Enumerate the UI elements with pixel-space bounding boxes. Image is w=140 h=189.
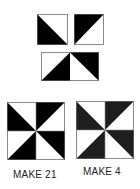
block-a-label: MAKE 21 bbox=[13, 169, 57, 180]
pinwheel-block-a bbox=[7, 102, 65, 160]
pinwheel-block-icon bbox=[7, 102, 65, 160]
hst-unit-2 bbox=[74, 14, 104, 45]
block-b-label: MAKE 4 bbox=[83, 166, 121, 177]
hst-pair bbox=[41, 52, 99, 81]
pinwheel-block-b bbox=[76, 101, 134, 159]
half-square-triangle-icon bbox=[74, 14, 104, 45]
hst-unit-1 bbox=[37, 14, 68, 45]
half-square-triangle-pair-icon bbox=[41, 52, 99, 81]
half-square-triangle-icon bbox=[37, 14, 68, 45]
pinwheel-block-icon bbox=[76, 101, 134, 159]
